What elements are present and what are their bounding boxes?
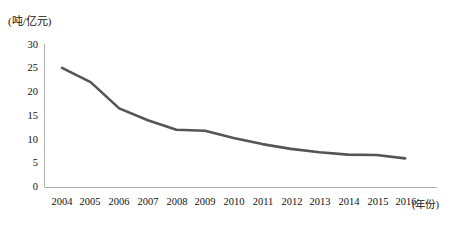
chart-container: (吨/亿元) (年份) 30 25 20 15 10 5 0 2004 2005…	[0, 0, 460, 228]
data-series-line	[62, 68, 405, 159]
plot-area	[0, 0, 460, 228]
